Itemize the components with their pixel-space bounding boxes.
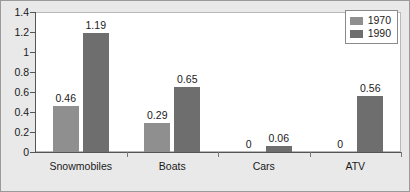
y-axis-tick-label: 0.4 [1, 107, 29, 118]
bar-value-label: 0.29 [147, 110, 167, 121]
bar-value-label: 0.46 [56, 93, 76, 104]
legend-swatch-icon [350, 17, 363, 25]
bar [83, 33, 109, 152]
y-axis-tick-label: 0.2 [1, 127, 29, 138]
legend-label: 1990 [368, 28, 391, 39]
y-axis-tick [30, 12, 36, 13]
bar-value-label: 0.06 [269, 133, 289, 144]
legend-entry: 1990 [350, 27, 391, 40]
x-axis-category-label: ATV [345, 161, 365, 172]
bar [174, 87, 200, 152]
y-axis-tick-label: 1.2 [1, 27, 29, 38]
y-axis-tick-label: 0.8 [1, 67, 29, 78]
y-axis-tick-label: 1.4 [1, 7, 29, 18]
legend-label: 1970 [368, 15, 391, 26]
bar-value-label: 0 [337, 139, 343, 150]
x-axis-category-label: Snowmobiles [50, 161, 112, 172]
bar-value-label: 0 [246, 139, 252, 150]
bar [144, 123, 170, 152]
y-axis-tick [30, 52, 36, 53]
bar [357, 96, 383, 152]
x-axis-tick [127, 152, 128, 157]
y-axis-line [35, 12, 36, 152]
y-axis-tick [30, 112, 36, 113]
bar-value-label: 1.19 [86, 20, 106, 31]
y-axis-tick-label: 0 [1, 147, 29, 158]
x-axis-category-label: Cars [253, 161, 275, 172]
bar [266, 146, 292, 152]
x-axis-category-label: Boats [159, 161, 186, 172]
x-axis-tick [218, 152, 219, 157]
y-axis-tick [30, 32, 36, 33]
y-axis-tick [30, 72, 36, 73]
bar-value-label: 0.65 [177, 74, 197, 85]
legend-entry: 1970 [350, 14, 391, 27]
bar [53, 106, 79, 152]
y-axis-tick [30, 132, 36, 133]
y-axis-tick-label: 1 [1, 47, 29, 58]
chart-figure: 00.20.40.60.811.21.4 SnowmobilesBoatsCar… [0, 0, 410, 192]
chart-legend: 19701990 [345, 10, 398, 44]
x-axis-tick [401, 152, 402, 157]
y-axis-tick [30, 152, 36, 153]
legend-swatch-icon [350, 30, 363, 38]
y-axis-tick [30, 92, 36, 93]
bar-value-label: 0.56 [360, 83, 380, 94]
y-axis-tick-label: 0.6 [1, 87, 29, 98]
x-axis-tick [310, 152, 311, 157]
